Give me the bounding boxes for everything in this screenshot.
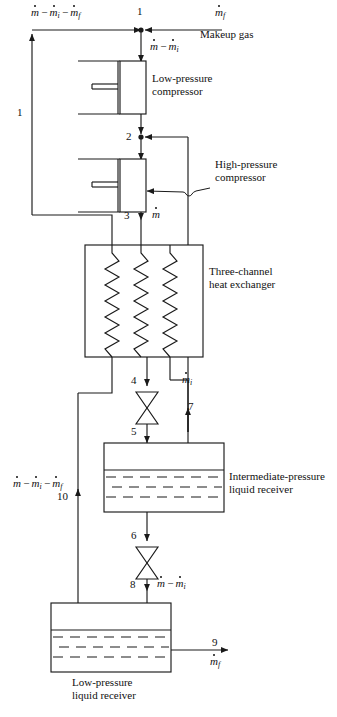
lp-compressor-label-line2: compressor — [152, 85, 203, 97]
hx-label-line1: Three-channel — [209, 265, 273, 277]
state-point-9: 9 — [212, 636, 218, 649]
state-point-1-left: 1 — [17, 106, 23, 119]
low-pressure-compressor-symbol — [78, 61, 146, 114]
flow-label-stream8: m − mi — [157, 577, 186, 591]
makeup-gas-label: Makeup gas — [200, 28, 253, 41]
state-point-10: 10 — [57, 490, 68, 503]
flow-label-stream7: mi — [182, 373, 192, 387]
flow-label-stream9: mf — [210, 655, 220, 669]
ip-receiver-label-line2: liquid receiver — [229, 483, 293, 495]
ip-receiver-label-line1: Intermediate-pressure — [229, 470, 325, 482]
low-pressure-compressor-label: Low-pressure compressor — [152, 72, 212, 98]
state-point-3: 3 — [124, 209, 130, 222]
intermediate-pressure-liquid-receiver-label: Intermediate-pressure liquid receiver — [229, 470, 325, 496]
hx-left-outlet-line — [78, 357, 112, 393]
flow-label-into-lp-compressor: m − mi — [150, 40, 179, 54]
recycle-to-hx-left-channel — [32, 215, 112, 245]
state-point-8: 8 — [130, 578, 136, 591]
hx-label-line2: heat exchanger — [209, 278, 275, 290]
state-point-2: 2 — [126, 130, 132, 143]
high-pressure-compressor-symbol — [78, 159, 146, 212]
lp-receiver-label-line1: Low-pressure — [72, 676, 132, 688]
flow-label-stream10: m − mi − mf — [13, 477, 63, 491]
lp-receiver-label-line2: liquid receiver — [72, 689, 136, 701]
low-pressure-liquid-receiver-label: Low-pressure liquid receiver — [72, 676, 136, 702]
high-pressure-compressor-label: High-pressure compressor — [215, 158, 277, 184]
flow-label-makeup: mf — [215, 6, 225, 20]
state-point-4: 4 — [131, 374, 137, 387]
hp-compressor-label-line1: High-pressure — [215, 158, 277, 170]
expansion-valve-lower — [136, 547, 158, 579]
hp-compressor-label-line2: compressor — [215, 171, 266, 183]
lp-compressor-label-line1: Low-pressure — [152, 72, 212, 84]
state-point-6: 6 — [131, 529, 137, 542]
process-flow-diagram — [0, 0, 337, 717]
three-channel-heat-exchanger-label: Three-channel heat exchanger — [209, 265, 275, 291]
stream7-receiver-connection — [170, 380, 188, 443]
state-point-5: 5 — [131, 425, 137, 438]
expansion-valve-upper — [136, 392, 158, 424]
flow-label-top-return: m − mi − mf — [31, 6, 81, 20]
hp-compressor-leader — [147, 188, 210, 196]
state-point-7: 7 — [188, 400, 194, 413]
state-point-1-top: 1 — [137, 5, 143, 18]
three-channel-heat-exchanger-body — [85, 245, 203, 357]
flow-label-stream3: m — [152, 208, 160, 221]
